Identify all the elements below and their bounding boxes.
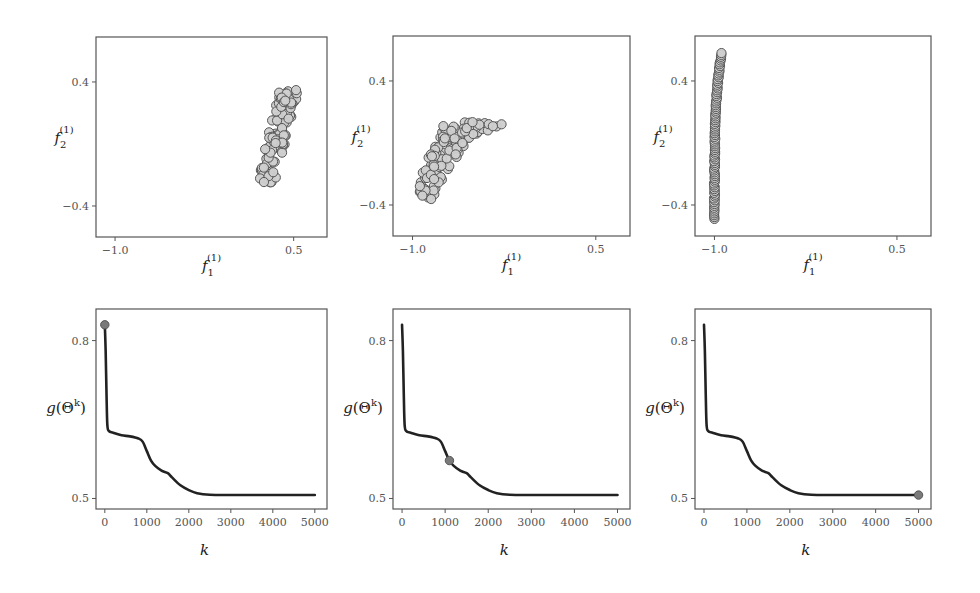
axes-frame bbox=[393, 36, 630, 236]
x-tick-label: 0 bbox=[399, 516, 406, 529]
x-tick-label: 4000 bbox=[862, 516, 890, 529]
current-iteration-marker bbox=[445, 456, 453, 464]
scatter-panel-top-left: −1.00.50.4−0.4f1(1)f2(1) bbox=[53, 37, 327, 278]
data-point bbox=[269, 168, 278, 177]
scatter-points bbox=[415, 118, 506, 204]
x-tick-label: 5000 bbox=[301, 516, 329, 529]
x-axis-label: k bbox=[801, 541, 810, 559]
data-point bbox=[451, 150, 460, 159]
data-point bbox=[415, 182, 424, 191]
cost-curve bbox=[402, 325, 617, 495]
y-tick-label: 0.8 bbox=[72, 335, 90, 348]
data-point bbox=[291, 86, 300, 95]
data-point bbox=[429, 162, 438, 171]
data-point bbox=[261, 145, 270, 154]
x-tick-label: −1.0 bbox=[102, 244, 129, 257]
data-point bbox=[429, 175, 438, 184]
cost-curve bbox=[105, 325, 315, 495]
line-panel-bottom-right: 0100020003000400050000.80.5kg(Θk) bbox=[645, 309, 932, 559]
x-axis-label: f1(1) bbox=[201, 252, 221, 278]
x-tick-label: 0.5 bbox=[587, 243, 605, 256]
axes-frame bbox=[695, 36, 931, 236]
data-point bbox=[497, 120, 506, 129]
x-tick-label: 2000 bbox=[474, 516, 502, 529]
current-iteration-marker bbox=[101, 321, 109, 329]
current-iteration-marker bbox=[914, 491, 922, 499]
data-point bbox=[439, 122, 448, 131]
x-axis-label: k bbox=[500, 541, 509, 559]
y-axis-label: g(Θk) bbox=[645, 397, 685, 417]
data-point bbox=[418, 191, 427, 200]
data-point bbox=[259, 163, 268, 172]
data-point bbox=[717, 48, 726, 57]
y-axis-label: g(Θk) bbox=[46, 397, 86, 417]
data-point bbox=[271, 138, 280, 147]
x-tick-label: −1.0 bbox=[701, 243, 728, 256]
data-point bbox=[458, 138, 467, 147]
x-tick-label: −1.0 bbox=[399, 243, 426, 256]
y-tick-label: 0.5 bbox=[671, 492, 689, 505]
y-tick-label: 0.8 bbox=[671, 335, 689, 348]
x-axis-label: f1(1) bbox=[501, 251, 521, 277]
x-tick-label: 3000 bbox=[217, 516, 245, 529]
data-point bbox=[427, 152, 436, 161]
y-tick-label: 0.4 bbox=[369, 75, 387, 88]
y-axis-label: f2(1) bbox=[350, 123, 370, 149]
y-tick-label: 0.5 bbox=[369, 492, 387, 505]
x-tick-label: 0.5 bbox=[888, 243, 906, 256]
scatter-points bbox=[709, 48, 726, 223]
y-tick-label: 0.8 bbox=[369, 335, 387, 348]
x-tick-label: 4000 bbox=[560, 516, 588, 529]
x-tick-label: 0 bbox=[701, 516, 708, 529]
cost-curve bbox=[704, 325, 919, 495]
y-axis-label: g(Θk) bbox=[343, 397, 383, 417]
line-panel-bottom-center: 0100020003000400050000.80.5kg(Θk) bbox=[343, 309, 631, 559]
data-point bbox=[440, 134, 449, 143]
x-axis-label: k bbox=[200, 541, 209, 559]
data-point bbox=[259, 177, 268, 186]
axes-frame bbox=[695, 309, 931, 509]
axes-frame bbox=[96, 37, 327, 237]
y-tick-label: −0.4 bbox=[62, 200, 89, 213]
data-point bbox=[427, 194, 436, 203]
axes-frame bbox=[393, 309, 630, 509]
scatter-panel-top-center: −1.00.50.4−0.4f1(1)f2(1) bbox=[350, 36, 630, 277]
y-tick-label: 0.5 bbox=[72, 492, 90, 505]
y-tick-label: 0.4 bbox=[72, 76, 90, 89]
x-tick-label: 3000 bbox=[517, 516, 545, 529]
x-tick-label: 1000 bbox=[133, 516, 161, 529]
axes-frame bbox=[96, 309, 327, 509]
figure: −1.00.50.4−0.4f1(1)f2(1) −1.00.50.4−0.4f… bbox=[0, 0, 980, 593]
y-tick-label: 0.4 bbox=[671, 75, 689, 88]
x-tick-label: 5000 bbox=[604, 516, 632, 529]
data-point bbox=[488, 122, 497, 131]
x-tick-label: 2000 bbox=[175, 516, 203, 529]
scatter-panel-top-right: −1.00.50.4−0.4f1(1)f2(1) bbox=[652, 36, 931, 277]
data-point bbox=[468, 118, 477, 127]
data-point bbox=[284, 114, 293, 123]
y-tick-label: −0.4 bbox=[359, 199, 386, 212]
x-tick-label: 5000 bbox=[905, 516, 933, 529]
y-axis-label: f2(1) bbox=[652, 123, 672, 149]
data-point bbox=[277, 148, 286, 157]
x-tick-label: 3000 bbox=[819, 516, 847, 529]
x-tick-label: 1000 bbox=[431, 516, 459, 529]
x-tick-label: 0 bbox=[101, 516, 108, 529]
y-tick-label: −0.4 bbox=[661, 199, 688, 212]
x-tick-label: 0.5 bbox=[285, 244, 303, 257]
line-panel-bottom-left: 0100020003000400050000.80.5kg(Θk) bbox=[46, 309, 329, 559]
data-point bbox=[281, 96, 290, 105]
scatter-points bbox=[255, 86, 301, 187]
x-tick-label: 4000 bbox=[259, 516, 287, 529]
x-axis-label: f1(1) bbox=[802, 251, 822, 277]
y-axis-label: f2(1) bbox=[53, 124, 73, 150]
x-tick-label: 1000 bbox=[733, 516, 761, 529]
x-tick-label: 2000 bbox=[776, 516, 804, 529]
